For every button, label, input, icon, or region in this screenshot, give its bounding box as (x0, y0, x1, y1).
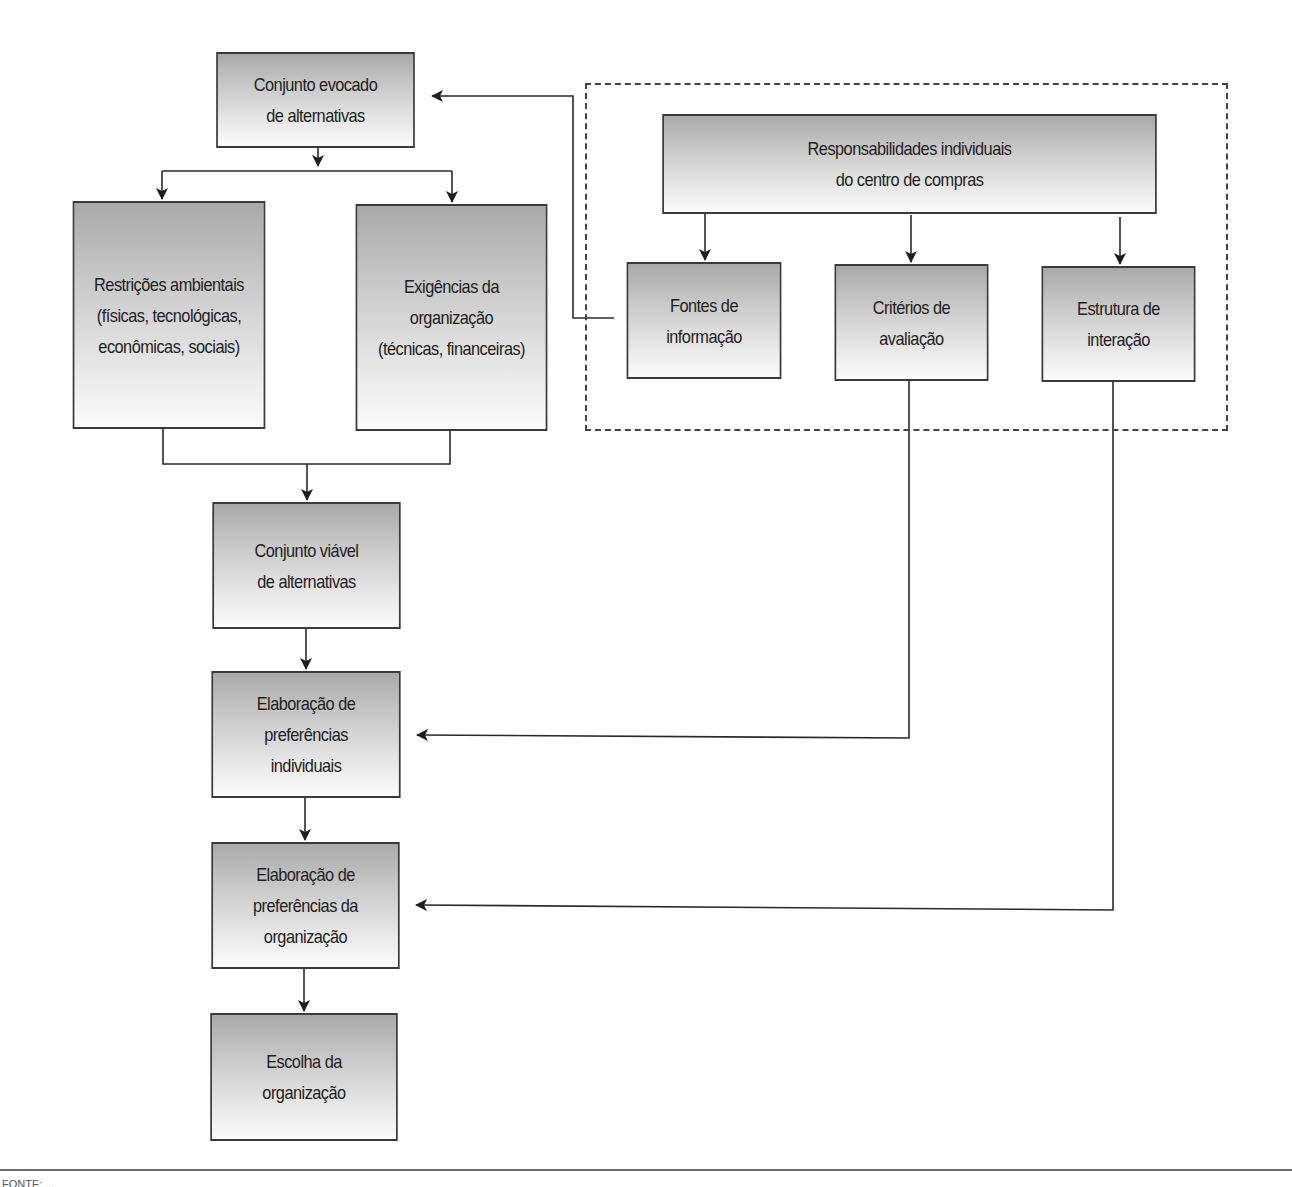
flowchart-canvas: Conjunto evocado de alternativas Restriç… (0, 0, 1292, 1187)
merge-bar (163, 428, 450, 464)
node-evoked-set: Conjunto evocado de alternativas (216, 52, 415, 148)
node-label: Restrições ambientais (físicas, tecnológ… (94, 269, 244, 362)
node-environmental-constraints: Restrições ambientais (físicas, tecnológ… (73, 201, 266, 429)
node-organization-preferences: Elaboração de preferências da organizaçã… (211, 842, 399, 969)
node-label: Escolha da organização (262, 1046, 345, 1108)
node-individual-responsibilities: Responsabilidades individuais do centro … (662, 114, 1157, 214)
arrow-criteria-to-individual (417, 380, 909, 738)
node-label: Conjunto evocado de alternativas (254, 69, 377, 131)
node-label: Critérios de avaliação (873, 292, 950, 354)
node-label: Estrutura de interação (1077, 293, 1160, 355)
footer-divider (0, 1169, 1292, 1171)
node-interaction-structure: Estrutura de interação (1042, 266, 1196, 382)
node-label: Conjunto viável de alternativas (254, 535, 358, 597)
node-label: Responsabilidades individuais do centro … (808, 133, 1012, 195)
node-label: Exigências da organização (técnicas, fin… (378, 271, 525, 364)
node-information-sources: Fontes de informação (627, 262, 782, 379)
node-label: Fontes de informação (666, 290, 742, 352)
source-caption: FONTE: ... (2, 1178, 382, 1187)
node-organization-requirements: Exigências da organização (técnicas, fin… (356, 204, 548, 431)
node-organization-choice: Escolha da organização (210, 1013, 397, 1141)
node-evaluation-criteria: Critérios de avaliação (835, 264, 989, 381)
node-label: Elaboração de preferências individuais (257, 688, 356, 781)
node-individual-preferences: Elaboração de preferências individuais (211, 671, 400, 798)
arrow-interaction-to-org (416, 381, 1113, 910)
node-feasible-set: Conjunto viável de alternativas (212, 502, 400, 629)
node-label: Elaboração de preferências da organizaçã… (253, 859, 358, 952)
